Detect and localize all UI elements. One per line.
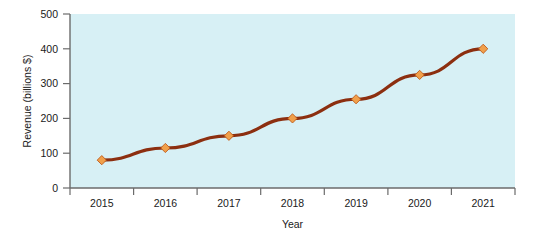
chart-canvas: 0 100 200 300 400 500 2015 2016 2017 201… xyxy=(0,0,542,237)
y-axis-title: Revenue (billions $) xyxy=(21,55,33,148)
y-tick-label-500: 500 xyxy=(40,8,58,20)
y-tick-label-100: 100 xyxy=(40,147,58,159)
revenue-line-chart: 0 100 200 300 400 500 2015 2016 2017 201… xyxy=(0,0,542,237)
x-tick-label-2020: 2020 xyxy=(408,197,432,209)
y-tick-label-0: 0 xyxy=(52,182,58,194)
x-axis-title: Year xyxy=(282,218,304,230)
y-tick-label-400: 400 xyxy=(40,43,58,55)
plot-area-background xyxy=(70,14,515,188)
y-tick-label-300: 300 xyxy=(40,77,58,89)
y-tick-label-200: 200 xyxy=(40,112,58,124)
x-tick-label-2019: 2019 xyxy=(344,197,368,209)
x-tick-label-2015: 2015 xyxy=(90,197,114,209)
x-tick-label-2017: 2017 xyxy=(217,197,241,209)
x-tick-label-2018: 2018 xyxy=(281,197,305,209)
x-tick-label-2016: 2016 xyxy=(154,197,178,209)
x-tick-label-2021: 2021 xyxy=(472,197,496,209)
